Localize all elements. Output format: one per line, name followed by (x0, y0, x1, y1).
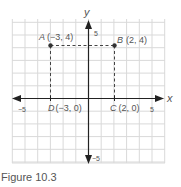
point-a-dot (48, 43, 52, 47)
point-d-label: D(−3, 0) (48, 103, 82, 113)
x-axis-left-arrow (12, 95, 21, 102)
y-max-tick-label: 5 (94, 30, 98, 37)
x-min-tick-label: −5 (18, 106, 26, 113)
x-axis-label: x (166, 92, 173, 104)
x-max-tick-label: 5 (150, 106, 154, 113)
y-axis-label: y (83, 6, 91, 18)
figure-caption: Figure 10.3 (1, 171, 57, 183)
point-b-label: B(2, 4) (117, 35, 147, 45)
y-min-tick-label: −5 (92, 155, 100, 162)
point-a-label: A(−3, 4) (38, 32, 73, 42)
x-axis-right-arrow (155, 95, 164, 102)
point-c-label: C(2, 0) (110, 103, 140, 113)
y-axis-up-arrow (85, 20, 92, 29)
coordinate-plane: y x 5 −5 −5 5 A(−3, 4) B(2, 4) C(2, 0) D… (0, 0, 181, 187)
dashed-rectangle (51, 46, 115, 99)
